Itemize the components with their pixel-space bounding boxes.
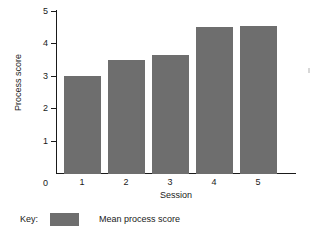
y-axis-title: Process score: [14, 28, 23, 138]
x-axis-tick-label-4: 4: [199, 178, 229, 187]
bar-session-1: [64, 76, 101, 174]
x-axis-tick-label-2: 2: [111, 178, 141, 187]
y-axis-tick-label-0: 0: [0, 179, 48, 188]
bar-session-5: [240, 26, 277, 174]
plot-area: [57, 11, 295, 174]
x-axis-tick-label-5: 5: [243, 178, 273, 187]
y-axis-tick-label-5: 5: [0, 7, 48, 16]
y-axis-tick-label-2: 2: [0, 104, 48, 113]
y-axis-tick-label-3: 3: [0, 72, 48, 81]
y-axis-tick-5: [51, 11, 56, 12]
bar-session-4: [196, 27, 233, 174]
chart-legend: Key: Mean process score: [20, 211, 180, 227]
y-axis-tick-4: [51, 43, 56, 44]
bar-session-3: [152, 55, 189, 174]
y-axis-tick-3: [51, 76, 56, 77]
bar-chart-figure: 5 4 3 2 1 0 Process score 1 2 3 4 5 Sess…: [0, 0, 317, 245]
x-axis-tick-label-3: 3: [155, 178, 185, 187]
bar-session-2: [108, 60, 145, 174]
y-axis-tick-2: [51, 108, 56, 109]
y-axis-tick-1: [51, 141, 56, 142]
legend-title: Key:: [20, 215, 38, 224]
x-axis-tick-label-1: 1: [67, 178, 97, 187]
legend-entry-label: Mean process score: [99, 215, 180, 224]
x-axis-title: Session: [56, 191, 296, 200]
scan-artifact: [308, 68, 310, 73]
y-axis-tick-label-1: 1: [0, 137, 48, 146]
legend-color-swatch: [50, 213, 79, 226]
y-axis-tick-label-4: 4: [0, 39, 48, 48]
